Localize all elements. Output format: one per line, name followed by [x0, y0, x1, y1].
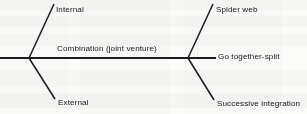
branch-line-spider-web	[188, 4, 213, 58]
diagram-canvas: Internal Combination (joint venture) Ext…	[0, 0, 307, 114]
branch-label-spider-web: Spider web	[216, 6, 258, 14]
spine-label-combination: Combination (joint venture)	[57, 45, 157, 53]
branch-label-go-together-split: Go together-split	[218, 53, 280, 61]
branch-line-successive-integration	[188, 58, 214, 100]
branch-line-external	[29, 58, 55, 99]
branch-label-external: External	[58, 99, 89, 107]
branch-line-internal	[29, 4, 54, 58]
branch-label-internal: Internal	[56, 6, 84, 14]
branch-label-successive-integration: Successive integration	[217, 100, 300, 108]
